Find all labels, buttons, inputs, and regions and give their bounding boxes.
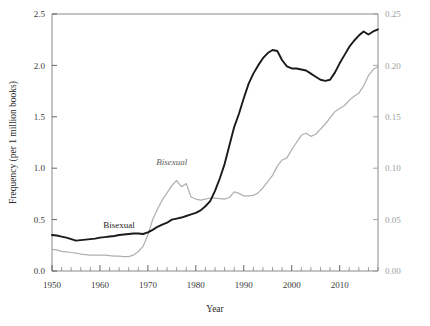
bottom-tick-label: 1970 <box>139 280 158 290</box>
left-tick-label: 0.0 <box>34 266 46 276</box>
left-tick-label: 1.5 <box>34 112 46 122</box>
series-line-primary <box>52 29 378 240</box>
series-lines <box>52 29 378 256</box>
right-tick-label: 0.25 <box>385 9 401 19</box>
right-axis-tick-labels: 0.000.050.100.150.200.25 <box>385 9 401 276</box>
right-tick-label: 0.15 <box>385 112 401 122</box>
chart-figure: 0.00.51.01.52.02.5 0.000.050.100.150.200… <box>0 0 430 326</box>
y-axis-title: Frequency (per 1 million books) <box>8 81 19 204</box>
right-tick-label: 0.20 <box>385 61 401 71</box>
left-tick-label: 1.0 <box>34 163 46 173</box>
series-annotation-secondary: Bisexual <box>156 157 187 167</box>
left-axis-tick-labels: 0.00.51.01.52.02.5 <box>34 9 46 276</box>
plot-frame <box>52 14 378 271</box>
right-tick-label: 0.10 <box>385 163 401 173</box>
left-tick-label: 2.0 <box>34 61 46 71</box>
bottom-tick-label: 2010 <box>331 280 350 290</box>
left-tick-label: 2.5 <box>34 9 46 19</box>
left-tick-label: 0.5 <box>34 215 46 225</box>
bottom-tick-label: 1960 <box>91 280 110 290</box>
chart-canvas: 0.00.51.01.52.02.5 0.000.050.100.150.200… <box>0 0 430 326</box>
bottom-axis-tick-labels: 1950196019701980199020002010 <box>43 280 349 290</box>
bottom-tick-label: 2000 <box>283 280 302 290</box>
left-axis-ticks <box>52 14 57 271</box>
bottom-tick-label: 1950 <box>43 280 62 290</box>
bottom-axis-ticks <box>52 265 378 271</box>
bottom-tick-label: 1990 <box>235 280 254 290</box>
right-tick-label: 0.00 <box>385 266 401 276</box>
x-axis-title: Year <box>206 304 224 314</box>
axes-frame <box>52 14 378 271</box>
series-annotation-primary: Bisexual <box>103 220 135 230</box>
right-tick-label: 0.05 <box>385 215 401 225</box>
right-axis-ticks <box>373 14 378 271</box>
bottom-tick-label: 1980 <box>187 280 206 290</box>
series-line-secondary <box>52 66 378 256</box>
